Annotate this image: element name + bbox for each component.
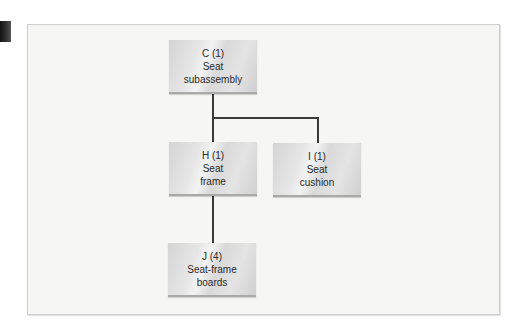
node-h-seat-frame: H (1) Seat frame [169, 142, 257, 196]
node-i-name-line1: Seat [307, 163, 328, 176]
node-c-seat-subassembly: C (1) Seat subassembly [169, 40, 257, 94]
node-h-code: H (1) [202, 149, 224, 162]
connector-h-to-j [212, 194, 214, 244]
connector-to-i [317, 117, 319, 143]
node-h-name-line2: frame [200, 175, 226, 188]
node-i-code: I (1) [308, 150, 326, 163]
section-marker [0, 21, 11, 42]
diagram-frame [27, 24, 500, 315]
node-j-seat-frame-boards: J (4) Seat-frame boards [168, 243, 256, 297]
node-i-seat-cushion: I (1) Seat cushion [273, 143, 361, 197]
node-c-name-line1: Seat [203, 60, 224, 73]
connector-horizontal [212, 117, 319, 119]
node-j-name-line1: Seat-frame [187, 263, 236, 276]
node-h-name-line1: Seat [203, 162, 224, 175]
node-c-name-line2: subassembly [184, 73, 242, 86]
node-i-name-line2: cushion [300, 176, 334, 189]
node-j-code: J (4) [202, 250, 222, 263]
node-j-name-line2: boards [197, 276, 228, 289]
node-c-code: C (1) [202, 47, 224, 60]
